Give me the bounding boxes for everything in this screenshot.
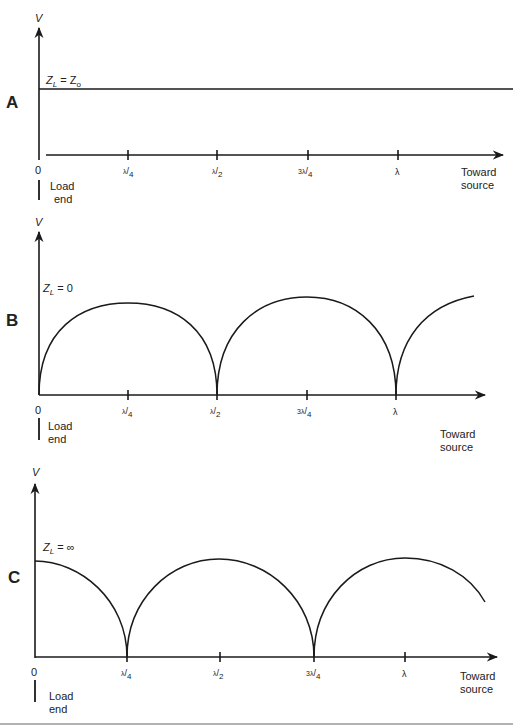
origin-label: 0 — [35, 404, 41, 416]
load-condition: ZL = ∞ — [42, 541, 75, 556]
voltage-curve — [39, 296, 474, 395]
tick-label-half: λ/2 — [213, 668, 224, 681]
tick-label-quarter: λ/4 — [121, 668, 132, 681]
load-end-label: Loadend — [50, 180, 74, 205]
panel-letter: B — [6, 311, 18, 330]
tick-label-quarter: λ/4 — [123, 166, 134, 179]
panel-a: A V ZL = Zo 0 λ/4 λ/2 3λ/4 λ Loadend Tow… — [6, 12, 513, 205]
panel-letter: A — [6, 93, 18, 112]
panel-b: B V ZL = 0 0 λ/4 λ/2 3λ/4 λ Loadend Towa… — [6, 216, 485, 453]
panel-c: C V ZL = ∞ 0 λ/4 λ/2 3λ/4 λ Loadend Towa… — [8, 466, 497, 715]
tick-label-quarter: λ/4 — [122, 406, 133, 419]
toward-source-label: Towardsource — [440, 428, 475, 453]
tick-label-half: λ/2 — [212, 166, 223, 179]
tick-label-lambda: λ — [402, 669, 407, 679]
load-end-label: Loadend — [49, 690, 73, 715]
y-axis-label: V — [35, 12, 44, 24]
toward-source-label: Towardsource — [460, 670, 495, 695]
load-condition: ZL = 0 — [42, 282, 73, 297]
tick-label-three-quarter: 3λ/4 — [297, 406, 312, 419]
tick-label-lambda: λ — [395, 167, 400, 177]
load-end-label: Loadend — [48, 420, 72, 445]
voltage-curve — [35, 558, 485, 657]
y-axis-label: V — [35, 216, 44, 228]
origin-label: 0 — [31, 666, 37, 678]
tick-label-three-quarter: 3λ/4 — [306, 668, 321, 681]
tick-label-three-quarter: 3λ/4 — [298, 166, 313, 179]
load-condition: ZL = Zo — [45, 74, 81, 89]
panel-letter: C — [8, 568, 20, 587]
origin-label: 0 — [35, 164, 41, 176]
tick-label-lambda: λ — [393, 407, 398, 417]
standing-wave-figure: A V ZL = Zo 0 λ/4 λ/2 3λ/4 λ Loadend Tow… — [0, 0, 513, 726]
tick-label-half: λ/2 — [210, 406, 221, 419]
toward-source-label: Towardsource — [461, 166, 496, 191]
y-axis-label: V — [32, 466, 41, 478]
